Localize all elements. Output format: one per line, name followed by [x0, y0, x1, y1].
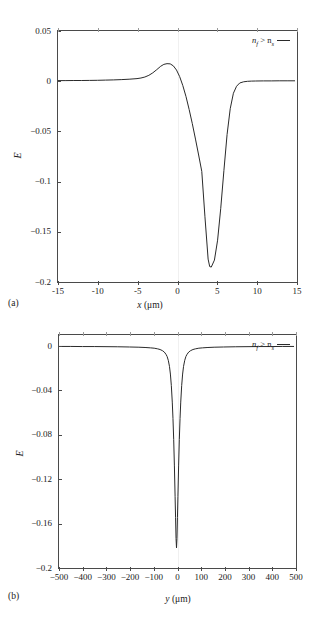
- y-axis-label-a: E: [12, 152, 23, 158]
- y-tick-label: 0: [0, 342, 52, 351]
- x-axis-label-b: y (μm): [165, 594, 190, 604]
- x-tick-label: -15: [38, 287, 78, 296]
- legend-gt-a: > n: [258, 35, 271, 45]
- curve-svg-b: [59, 335, 296, 568]
- x-tick-mark-top: [178, 28, 179, 32]
- y-tick-label: −0.15: [0, 227, 51, 236]
- y-tick-mark: [57, 81, 61, 82]
- figure-container: 0.05 0 −0.05 −0.1 −0.15 −0.2 -15 -10 -5 …: [0, 0, 312, 619]
- y-tick-mark: [58, 479, 62, 480]
- x-tick-mark-top: [98, 28, 99, 32]
- x-tick-mark: [178, 567, 179, 571]
- legend-sub-s-b: s: [271, 344, 274, 351]
- x-tick-mark: [106, 567, 107, 571]
- x-tick-label: 5: [197, 287, 237, 296]
- y-tick-label: −0.08: [0, 430, 52, 439]
- x-tick-label: 0: [158, 287, 198, 296]
- x-tick-mark-top: [130, 332, 131, 336]
- y-tick-mark: [58, 390, 62, 391]
- x-tick-mark: [225, 567, 226, 571]
- y-tick-mark: [57, 232, 61, 233]
- x-tick-mark-top: [296, 332, 297, 336]
- y-tick-label: −0.16: [0, 519, 52, 528]
- y-tick-label: −0.12: [0, 475, 52, 484]
- y-tick-mark: [57, 131, 61, 132]
- x-tick-mark: [98, 281, 99, 285]
- y-tick-label: 0.05: [0, 27, 51, 36]
- x-axis-unit-a: (μm): [142, 300, 163, 310]
- y-axis-label-b: E: [14, 450, 25, 456]
- x-tick-mark: [297, 281, 298, 285]
- x-tick-mark: [130, 567, 131, 571]
- legend-sub-s-a: s: [271, 40, 274, 47]
- x-axis-unit-b: (μm): [170, 594, 191, 604]
- x-tick-mark: [138, 281, 139, 285]
- legend-gt-b: > n: [258, 339, 271, 349]
- y-tick-label: −0.04: [0, 386, 52, 395]
- y-tick-mark: [57, 182, 61, 183]
- x-tick-mark: [272, 567, 273, 571]
- x-tick-mark-top: [154, 332, 155, 336]
- x-tick-mark: [217, 281, 218, 285]
- panel-b: 0 −0.04 −0.08 −0.12 −0.16 −0.2 −500 −400…: [0, 320, 312, 619]
- x-tick-mark-top: [58, 28, 59, 32]
- x-tick-mark: [249, 567, 250, 571]
- y-tick-label: −0.2: [0, 564, 52, 573]
- x-tick-label: 15: [277, 287, 312, 296]
- x-tick-label: -5: [118, 287, 158, 296]
- x-tick-mark: [154, 567, 155, 571]
- y-tick-mark: [58, 524, 62, 525]
- legend-b: nf > ns: [252, 339, 290, 351]
- y-tick-mark: [58, 435, 62, 436]
- y-tick-label: −0.05: [0, 127, 51, 136]
- y-tick-label: −0.2: [0, 278, 51, 287]
- x-tick-mark-top: [178, 332, 179, 336]
- legend-line-swatch-a: [277, 40, 290, 41]
- x-tick-mark-top: [138, 28, 139, 32]
- x-tick-mark-top: [106, 332, 107, 336]
- x-tick-mark-top: [297, 28, 298, 32]
- x-tick-mark: [296, 567, 297, 571]
- x-tick-label: 10: [237, 287, 277, 296]
- x-tick-mark: [201, 567, 202, 571]
- legend-line-swatch-b: [277, 344, 290, 345]
- plot-area-a: [57, 30, 298, 283]
- x-tick-label: 500: [276, 573, 312, 582]
- x-tick-mark-top: [225, 332, 226, 336]
- plot-area-b: [58, 334, 297, 569]
- x-tick-mark: [178, 281, 179, 285]
- y-tick-label: 0: [0, 77, 51, 86]
- x-tick-mark: [83, 567, 84, 571]
- x-tick-mark-top: [201, 332, 202, 336]
- panel-caption-a: (a): [8, 298, 19, 308]
- panel-caption-b: (b): [8, 591, 19, 601]
- x-tick-mark-top: [217, 28, 218, 32]
- curve-svg-a: [58, 31, 297, 282]
- y-tick-label: −0.1: [0, 177, 51, 186]
- x-tick-mark-top: [257, 28, 258, 32]
- legend-a: nf > ns: [252, 35, 290, 47]
- x-tick-mark: [59, 567, 60, 571]
- x-tick-label: -10: [78, 287, 118, 296]
- x-tick-mark-top: [272, 332, 273, 336]
- y-tick-mark: [58, 346, 62, 347]
- x-tick-mark: [58, 281, 59, 285]
- x-tick-mark-top: [249, 332, 250, 336]
- x-tick-mark-top: [59, 332, 60, 336]
- x-tick-mark: [257, 281, 258, 285]
- x-axis-label-a: x (μm): [137, 300, 162, 310]
- x-tick-mark-top: [83, 332, 84, 336]
- panel-a: 0.05 0 −0.05 −0.1 −0.15 −0.2 -15 -10 -5 …: [0, 0, 312, 310]
